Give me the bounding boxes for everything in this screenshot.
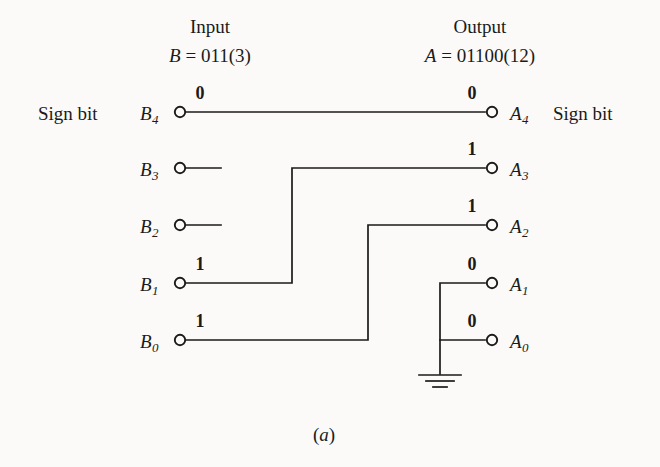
terminal-node-b0[interactable]	[175, 335, 185, 345]
caption-close-paren: )	[329, 424, 335, 445]
figure-shift-left-wiring-diagram: Input B = 011(3) Output A = 01100(12) Si…	[0, 0, 660, 467]
terminal-node-b3[interactable]	[175, 163, 185, 173]
ground-symbol	[419, 375, 461, 387]
terminal-node-a0[interactable]	[487, 335, 497, 345]
terminal-node-a1[interactable]	[487, 278, 497, 288]
terminal-node-b2[interactable]	[175, 220, 185, 230]
terminal-node-a3[interactable]	[487, 163, 497, 173]
terminal-node-b1[interactable]	[175, 278, 185, 288]
wire-ground-to-a1	[440, 283, 485, 374]
terminal-node-a2[interactable]	[487, 220, 497, 230]
terminal-node-a4[interactable]	[487, 107, 497, 117]
wiring-layer	[0, 0, 660, 467]
caption-letter: a	[319, 424, 329, 445]
figure-caption: (a)	[313, 425, 335, 444]
terminal-node-b4[interactable]	[175, 107, 185, 117]
